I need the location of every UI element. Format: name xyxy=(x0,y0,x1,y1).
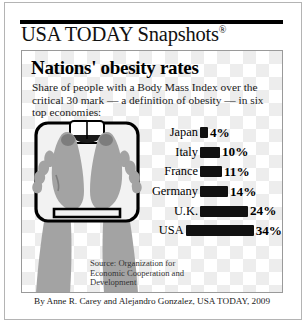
obesity-bar-chart: Japan 4% Italy 10% France 11% xyxy=(142,123,282,241)
bar-france xyxy=(200,166,222,177)
byline-credit: By Anne R. Carey and Alejandro Gonzalez,… xyxy=(21,296,283,306)
bar-italy xyxy=(200,147,220,158)
bar-label-germany: Germany xyxy=(142,184,200,199)
bar-uk xyxy=(200,206,248,217)
source-credit: Source: Organization for Economic Cooper… xyxy=(90,259,210,288)
table-row: USA 34% xyxy=(142,221,282,241)
bar-value-uk: 24% xyxy=(250,203,276,219)
bar-germany xyxy=(200,186,228,197)
table-row: Italy 10% xyxy=(142,143,282,163)
right-big-toenail xyxy=(99,134,113,146)
bar-value-japan: 4% xyxy=(210,125,230,141)
bar-usa xyxy=(186,225,254,236)
bar-value-italy: 10% xyxy=(222,144,248,160)
table-row: France 11% xyxy=(142,162,282,182)
bar-track-usa: 34% xyxy=(186,223,282,239)
bar-track-germany: 14% xyxy=(200,184,256,200)
bar-value-germany: 14% xyxy=(230,184,256,200)
table-row: U.K. 24% xyxy=(142,201,282,221)
table-row: Germany 14% xyxy=(142,182,282,202)
usa-today-snapshot-infographic: USA TODAY Snapshots® Nations' obesity ra… xyxy=(0,0,308,326)
bar-label-france: France xyxy=(142,164,200,179)
bar-track-japan: 4% xyxy=(200,125,230,141)
bar-value-usa: 34% xyxy=(256,223,282,239)
left-big-toenail xyxy=(61,134,75,146)
masthead-brand: USA TODAY Snapshots® xyxy=(21,23,283,49)
bar-label-japan: Japan xyxy=(142,125,200,140)
table-row: Japan 4% xyxy=(142,123,282,143)
content-panel: Nations' obesity rates Share of people w… xyxy=(21,50,283,293)
bathroom-scale-shape xyxy=(36,121,138,221)
bar-value-france: 11% xyxy=(224,164,250,180)
registered-trademark-icon: ® xyxy=(219,24,227,35)
masthead-brand-text: USA TODAY Snapshots xyxy=(21,23,219,45)
bar-japan xyxy=(200,127,208,138)
bar-track-italy: 10% xyxy=(200,144,248,160)
bar-label-usa: USA xyxy=(142,223,186,238)
bar-label-italy: Italy xyxy=(142,145,200,160)
bar-track-france: 11% xyxy=(200,164,250,180)
page-title: Nations' obesity rates xyxy=(31,57,199,79)
bar-track-uk: 24% xyxy=(200,203,276,219)
bar-label-uk: U.K. xyxy=(142,204,200,219)
